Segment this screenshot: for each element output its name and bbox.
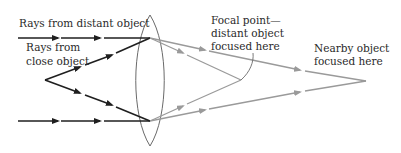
label-focal-2: distant object	[211, 27, 285, 39]
focal-point-pointer	[241, 53, 253, 80]
convex-lens	[136, 15, 165, 146]
label-focal-1: Focal point—	[211, 14, 281, 26]
label-close-rays-1: Rays from	[26, 41, 80, 53]
label-nearby-1: Nearby object	[314, 42, 390, 54]
lens-focus-diagram: Rays from distant object Rays from close…	[0, 0, 401, 153]
label-focal-3: focused here	[211, 40, 280, 52]
label-distant-rays: Rays from distant object	[19, 17, 150, 29]
label-close-rays-2: close object	[26, 55, 90, 67]
label-nearby-2: focused here	[314, 55, 383, 67]
